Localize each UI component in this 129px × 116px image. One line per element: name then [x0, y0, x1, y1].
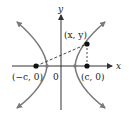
right-focus-label: (c, 0)	[81, 72, 105, 82]
left-focus-point	[33, 63, 38, 68]
hyperbola-diagram: y x 0 (−c, 0) (c, 0) (x, y)	[0, 0, 129, 116]
hyperbola-left-branch-upper	[17, 22, 47, 66]
vertex-left	[45, 64, 49, 68]
vertex-right	[73, 64, 77, 68]
y-axis-label: y	[57, 4, 64, 14]
hyperbola-right-branch-upper	[75, 22, 105, 66]
curve-point-label: (x, y)	[64, 30, 87, 40]
right-focus-point	[84, 63, 89, 68]
x-axis-label: x	[116, 61, 121, 71]
left-focus-label: (−c, 0)	[12, 72, 43, 82]
origin-label: 0	[53, 72, 59, 82]
curve-point	[84, 41, 89, 46]
